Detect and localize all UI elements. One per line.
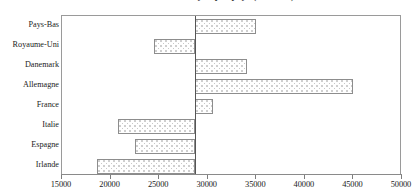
x-tick-label-4: 35000 <box>245 180 265 189</box>
x-tick-mark-7 <box>401 175 402 179</box>
x-tick-mark-4 <box>255 175 256 179</box>
x-tick-mark-0 <box>61 175 62 179</box>
x-tick-mark-3 <box>207 175 208 179</box>
y-axis-label-1: Royaume-Uni <box>13 40 59 50</box>
y-axis-label-4: France <box>37 100 59 110</box>
chart-title: Salaire annuel moyen par pays (en euros) <box>0 0 417 3</box>
x-tick-mark-5 <box>304 175 305 179</box>
y-axis-category-labels: Pays-Bas Royaume-Uni Danemark Allemagne … <box>0 15 59 175</box>
x-tick-label-6: 45000 <box>342 180 362 189</box>
bar-espagne <box>135 139 195 154</box>
baseline-reference-line <box>195 16 196 174</box>
y-axis-label-0: Pays-Bas <box>29 20 59 30</box>
x-tick-mark-1 <box>110 175 111 179</box>
y-axis-label-7: Irlande <box>36 160 59 170</box>
x-tick-mark-2 <box>158 175 159 179</box>
x-tick-mark-6 <box>352 175 353 179</box>
x-tick-label-1: 20000 <box>99 180 119 189</box>
x-tick-label-3: 30000 <box>196 180 216 189</box>
bar-danemark <box>195 59 246 74</box>
x-tick-label-2: 25000 <box>148 180 168 189</box>
y-axis-label-6: Espagne <box>31 140 59 150</box>
bar-allemagne <box>195 79 353 94</box>
plot-area <box>61 15 401 175</box>
bar-pays-bas <box>195 19 256 34</box>
x-axis-line <box>61 174 402 175</box>
bar-italie <box>118 119 195 134</box>
y-axis-label-5: Italie <box>42 120 59 130</box>
x-tick-label-0: 15000 <box>51 180 71 189</box>
bar-chart: Salaire annuel moyen par pays (en euros)… <box>0 0 417 193</box>
y-axis-label-2: Danemark <box>25 60 59 70</box>
plot-inner <box>62 16 400 174</box>
bar-irlande <box>97 159 195 174</box>
y-axis-label-3: Allemagne <box>23 80 59 90</box>
x-tick-label-7: 50000 <box>391 180 411 189</box>
bar-france <box>195 99 212 114</box>
bar-royaume-uni <box>154 39 195 54</box>
x-tick-label-5: 40000 <box>294 180 314 189</box>
